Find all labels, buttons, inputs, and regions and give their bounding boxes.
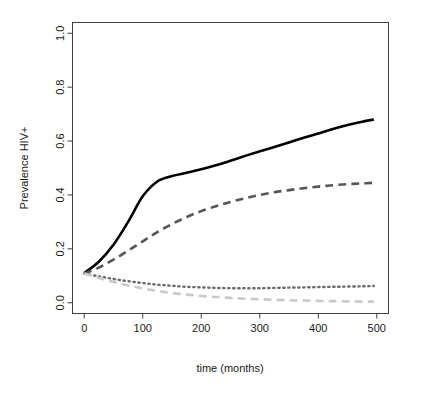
x-axis-tick-label: 400	[309, 322, 327, 334]
x-axis-tick-label: 500	[368, 322, 386, 334]
x-axis-tick-label: 100	[134, 322, 152, 334]
y-axis-tick-label: 0.8	[54, 80, 66, 95]
y-axis-tick-label: 0.6	[54, 133, 66, 148]
y-axis-tick-label: 0.4	[54, 187, 66, 202]
x-axis-tick-label: 200	[192, 322, 210, 334]
y-axis-tick-label: 1.0	[54, 26, 66, 41]
x-axis-tick-label: 0	[81, 322, 87, 334]
figure-root: 0.00.20.40.60.81.0 0100200300400500 time…	[0, 0, 426, 397]
y-axis-tick-label: 0.2	[54, 241, 66, 256]
x-axis-title: time (months)	[196, 362, 263, 374]
prevalence-line-chart: 0.00.20.40.60.81.0 0100200300400500 time…	[0, 0, 426, 397]
y-axis-tick-label: 0.0	[54, 295, 66, 310]
y-axis-title: Prevalence HIV+	[18, 127, 30, 210]
x-axis-tick-label: 300	[251, 322, 269, 334]
